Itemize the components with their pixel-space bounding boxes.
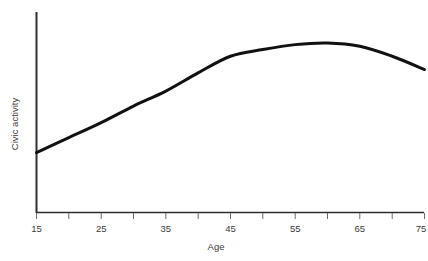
x-tick-label-15: 15 bbox=[31, 223, 42, 234]
x-axis-title: Age bbox=[208, 241, 225, 252]
y-axis-title: Civic activity bbox=[9, 98, 20, 151]
chart-figure: 15 25 35 45 55 65 75 Age Civic activity bbox=[0, 0, 428, 261]
x-tick-label-75: 75 bbox=[416, 223, 427, 234]
civic-activity-line-chart: 15 25 35 45 55 65 75 Age Civic activity bbox=[0, 0, 428, 261]
x-tick-label-25: 25 bbox=[96, 223, 107, 234]
x-tick-label-35: 35 bbox=[161, 223, 172, 234]
x-tick-label-55: 55 bbox=[290, 223, 301, 234]
x-tick-label-65: 65 bbox=[355, 223, 366, 234]
chart-background bbox=[0, 0, 428, 261]
x-tick-label-45: 45 bbox=[225, 223, 236, 234]
